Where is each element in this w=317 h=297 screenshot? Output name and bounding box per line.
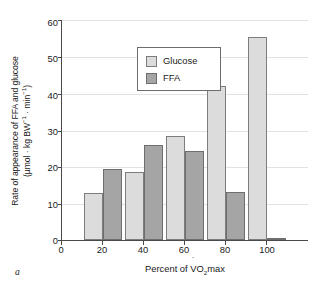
v-dot-accent: V [190, 263, 196, 274]
x-axis-label: Percent of VO2max [60, 263, 310, 274]
x-axis-label-tail: max [207, 263, 225, 274]
chart-legend: Glucose FFA [137, 47, 221, 91]
bar-glucose-80 [207, 86, 226, 240]
x-axis-label-prefix: Percent of [145, 263, 190, 274]
y-tick-label-60: 60 [36, 18, 58, 27]
legend-swatch-ffa-icon [146, 73, 157, 84]
legend-entry-ffa: FFA [146, 71, 180, 85]
legend-swatch-glucose-icon [146, 56, 157, 67]
legend-label-glucose: Glucose [163, 56, 197, 65]
y-axis-units-exponent-2: −1 [19, 88, 26, 95]
y-axis-line [61, 20, 62, 241]
y-axis-units-mid: · min [21, 95, 31, 116]
x-tick-label-80: 80 [210, 245, 240, 254]
x-tick-label-100: 100 [252, 245, 282, 254]
x-tick-label-60: 60 [169, 245, 199, 254]
bar-chart-figure: Rate of appearance of FFA and glucose (µ… [0, 0, 317, 297]
x-axis-label-o: O [197, 263, 204, 274]
bar-ffa-20 [103, 169, 122, 240]
plot-area: Glucose FFA [61, 20, 308, 241]
y-tickmark-30 [58, 131, 61, 132]
panel-label: a [15, 266, 20, 277]
y-tickmark-20 [58, 167, 61, 168]
y-axis-label-line1: Rate of appearance of FFA and glucose [10, 56, 22, 206]
x-axis-tick-labels: 0 20 40 60 80 100 [0, 245, 317, 259]
y-tick-label-0: 0 [36, 236, 58, 245]
bar-ffa-100 [267, 238, 286, 240]
legend-label-ffa: FFA [163, 73, 180, 82]
x-tick-label-20: 20 [87, 245, 117, 254]
bar-ffa-80 [226, 192, 245, 240]
y-axis-units-exponent-1: −1 [19, 116, 26, 123]
y-tickmark-10 [58, 204, 61, 205]
y-tickmark-40 [58, 94, 61, 95]
bar-glucose-20 [84, 193, 103, 240]
legend-entry-glucose: Glucose [146, 54, 197, 68]
bar-glucose-60 [166, 136, 185, 240]
gridline-40 [62, 94, 308, 95]
bar-glucose-40 [125, 172, 144, 240]
bar-ffa-40 [144, 145, 163, 240]
y-axis-units-prefix: (µmol · kg BW [21, 123, 31, 177]
y-tickmark-60 [58, 20, 61, 21]
y-tick-label-40: 40 [36, 91, 58, 100]
gridline-60 [62, 20, 308, 21]
bar-ffa-60 [185, 151, 204, 240]
y-tick-label-50: 50 [36, 54, 58, 63]
y-tick-label-10: 10 [36, 200, 58, 209]
y-axis-units-suffix: ) [21, 85, 31, 88]
y-tick-label-20: 20 [36, 163, 58, 172]
y-tick-label-30: 30 [36, 127, 58, 136]
bar-glucose-100 [248, 37, 267, 240]
y-axis-label-line2: (µmol · kg BW−1 · min−1) [21, 56, 33, 206]
x-tick-label-40: 40 [128, 245, 158, 254]
gridline-30 [62, 131, 308, 132]
x-tick-label-0: 0 [46, 245, 76, 254]
y-tickmark-50 [58, 57, 61, 58]
y-axis-label: Rate of appearance of FFA and glucose (µ… [8, 18, 34, 244]
